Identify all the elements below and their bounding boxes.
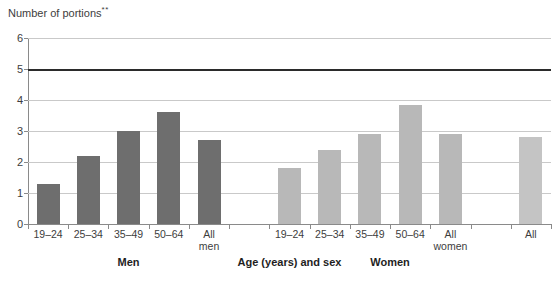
chart-footnote [8, 275, 554, 283]
y-tick-mark-3 [24, 131, 28, 132]
x-axis-label-12: All [511, 228, 551, 240]
group-label-men: Men [39, 256, 219, 268]
x-tick-mark-13 [551, 224, 552, 229]
y-axis-title-superscript: ** [102, 5, 109, 14]
plot-area: 0123456 [28, 38, 551, 224]
group-label-women: Women [300, 256, 480, 268]
x-tick-mark-8 [350, 224, 351, 229]
x-axis-label-4: All men [189, 228, 229, 252]
x-tick-mark-4 [189, 224, 190, 229]
y-tick-mark-6 [24, 38, 28, 39]
bar-women-50–64[interactable] [399, 105, 422, 224]
bar-men-25–34[interactable] [77, 156, 100, 224]
bar-women-19–24[interactable] [278, 168, 301, 224]
gridline-2 [28, 162, 551, 163]
chart-figure: Number of portions** 0123456 19–2425–343… [0, 0, 558, 283]
bar-all-all[interactable] [519, 137, 542, 224]
gridline-6 [28, 38, 551, 39]
y-tick-label-0: 0 [17, 219, 23, 230]
x-axis-label-3: 50–64 [149, 228, 189, 240]
y-tick-mark-2 [24, 162, 28, 163]
x-tick-mark-2 [108, 224, 109, 229]
reference-line [28, 69, 551, 71]
y-tick-label-1: 1 [17, 188, 23, 199]
bar-men-all-men[interactable] [198, 140, 221, 224]
x-tick-mark-11 [471, 224, 472, 229]
x-tick-mark-0 [28, 224, 29, 229]
gridline-4 [28, 100, 551, 101]
bar-men-19–24[interactable] [37, 184, 60, 224]
x-tick-mark-5 [229, 224, 230, 229]
y-axis-title: Number of portions** [8, 5, 109, 19]
x-axis-label-2: 35–49 [108, 228, 148, 240]
bar-women-25–34[interactable] [318, 150, 341, 224]
x-axis-label-9: 50–64 [390, 228, 430, 240]
x-tick-mark-3 [149, 224, 150, 229]
x-tick-mark-6 [269, 224, 270, 229]
x-tick-mark-12 [511, 224, 512, 229]
bar-women-all-women[interactable] [439, 134, 462, 224]
x-tick-mark-1 [68, 224, 69, 229]
x-tick-mark-9 [390, 224, 391, 229]
bar-men-35–49[interactable] [117, 131, 140, 224]
x-axis-label-6: 19–24 [269, 228, 309, 240]
y-tick-label-4: 4 [17, 95, 23, 106]
x-axis-label-1: 25–34 [68, 228, 108, 240]
x-axis-label-10: All women [430, 228, 470, 252]
y-tick-label-5: 5 [17, 64, 23, 75]
y-tick-mark-1 [24, 193, 28, 194]
bar-men-50–64[interactable] [157, 112, 180, 224]
x-tick-mark-7 [310, 224, 311, 229]
bar-women-35–49[interactable] [358, 134, 381, 224]
x-axis-label-8: 35–49 [350, 228, 390, 240]
x-tick-mark-10 [430, 224, 431, 229]
y-tick-label-3: 3 [17, 126, 23, 137]
x-axis-line [28, 224, 551, 225]
y-axis-title-text: Number of portions [8, 7, 102, 19]
gridline-3 [28, 131, 551, 132]
x-axis-label-0: 19–24 [28, 228, 68, 240]
x-axis-label-7: 25–34 [310, 228, 350, 240]
y-tick-label-2: 2 [17, 157, 23, 168]
y-tick-label-6: 6 [17, 33, 23, 44]
y-tick-mark-4 [24, 100, 28, 101]
